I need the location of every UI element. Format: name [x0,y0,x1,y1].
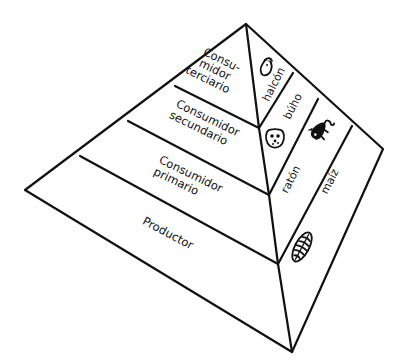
label-producer-line-1: Productor [140,214,196,253]
label-primary: Consumidor primario [151,152,225,207]
owl-icon [266,129,284,148]
label-producer: Productor [140,214,196,253]
food-pyramid-diagram: Consu- midor terciario Consumidor secund… [0,0,404,362]
organism-label-buho: búho [281,91,305,122]
mouse-icon [306,113,335,144]
organism-label-maiz: maíz [318,167,342,197]
pyramid-svg: Consu- midor terciario Consumidor secund… [0,0,404,362]
label-tertiary: Consu- midor terciario [183,41,243,96]
label-secondary: Consumidor secundario [167,96,242,151]
hawk-icon [261,58,272,75]
